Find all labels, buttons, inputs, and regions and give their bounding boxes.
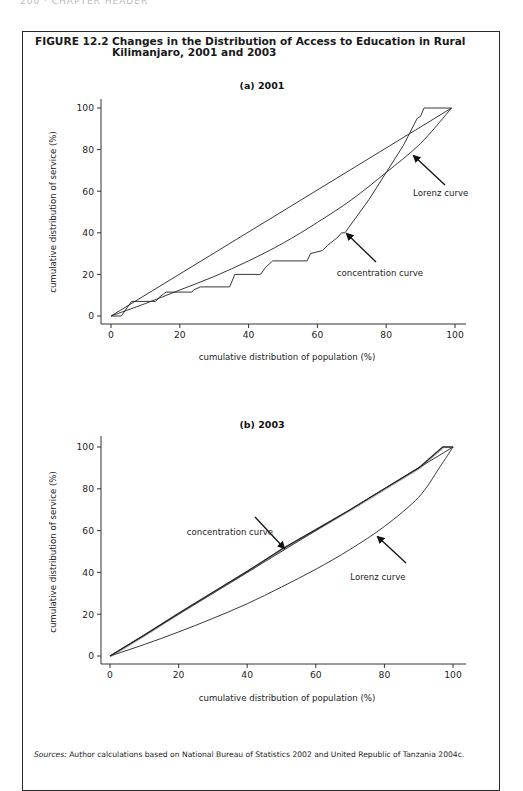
annotation-label: concentration curve — [337, 268, 423, 278]
x-tick-label: 20 — [173, 669, 185, 680]
sources-note: Sources: Author calculations based on Na… — [34, 750, 489, 759]
y-tick-label: 0 — [88, 310, 94, 321]
y-tick-label: 60 — [82, 525, 94, 536]
y-tick-label: 40 — [82, 567, 94, 578]
annotation-label: Lorenz curve — [413, 188, 468, 198]
y-tick-label: 60 — [82, 186, 94, 197]
x-tick-label: 60 — [310, 669, 322, 680]
y-tick-label: 100 — [76, 441, 94, 452]
y-tick-label: 80 — [82, 483, 94, 494]
chart-title: (b) 2003 — [239, 419, 284, 430]
x-tick-label: 80 — [379, 669, 391, 680]
x-axis-label: cumulative distribution of population (%… — [199, 352, 376, 362]
x-tick-label: 100 — [446, 329, 464, 340]
sources-label: Sources: — [34, 750, 67, 759]
x-tick-label: 0 — [107, 669, 113, 680]
y-tick-label: 0 — [88, 650, 94, 661]
x-tick-label: 40 — [243, 329, 255, 340]
x-tick-label: 40 — [241, 669, 253, 680]
line-of-equality-line — [111, 108, 452, 316]
concentration-curve-shadow-line — [111, 448, 454, 657]
annotation-arrow — [347, 234, 376, 262]
y-tick-label: 40 — [82, 227, 94, 238]
annotation-label: Lorenz curve — [350, 572, 405, 582]
annotation-label: concentration curve — [187, 527, 273, 537]
chart-title: (a) 2001 — [240, 80, 285, 91]
annotation-arrow — [414, 156, 445, 185]
x-tick-label: 60 — [312, 329, 324, 340]
x-axis-label: cumulative distribution of population (%… — [199, 693, 376, 703]
chart-2003: (b) 2003020406080100020406080100cumulati… — [48, 419, 466, 703]
y-axis-label: cumulative distribution of service (%) — [48, 471, 58, 633]
annotation-arrow — [378, 537, 406, 563]
x-tick-label: 100 — [444, 669, 462, 680]
y-axis-label: cumulative distribution of service (%) — [48, 131, 58, 293]
y-tick-label: 20 — [82, 609, 94, 620]
y-tick-label: 20 — [82, 269, 94, 280]
sources-text: Author calculations based on National Bu… — [67, 750, 464, 759]
y-tick-label: 80 — [82, 144, 94, 155]
x-tick-label: 80 — [380, 329, 392, 340]
chart-2001: (a) 2001020406080100020406080100cumulati… — [48, 80, 468, 362]
x-tick-label: 0 — [108, 329, 114, 340]
y-tick-label: 100 — [76, 102, 94, 113]
x-tick-label: 20 — [174, 329, 186, 340]
